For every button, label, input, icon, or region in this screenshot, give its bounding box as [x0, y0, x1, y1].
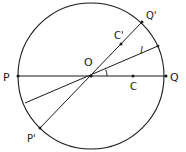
- label-Q: Q: [170, 71, 179, 84]
- label-P: P: [3, 71, 10, 84]
- point-C: [132, 75, 135, 78]
- point-Qprime: [141, 21, 144, 24]
- diagram-canvas: O P Q C Q' P' C' l: [0, 0, 186, 152]
- point-Q: [165, 75, 168, 78]
- point-Cprime: [120, 43, 123, 46]
- label-l: l: [140, 45, 143, 56]
- point-Pprime: [39, 127, 42, 130]
- label-O: O: [84, 56, 93, 69]
- geometry-diagram: O P Q C Q' P' C' l: [0, 0, 186, 152]
- label-Pprime: P': [27, 133, 36, 144]
- angle-arc: [106, 70, 107, 76]
- label-C: C: [130, 81, 137, 92]
- point-P: [17, 75, 20, 78]
- point-l-end: [157, 45, 160, 48]
- point-O: [89, 74, 92, 77]
- label-Qprime: Q': [146, 10, 157, 21]
- label-Cprime: C': [114, 30, 124, 41]
